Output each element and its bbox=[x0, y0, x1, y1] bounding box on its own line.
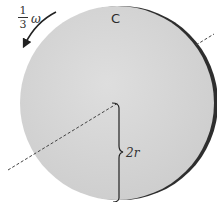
disc-diagram-svg bbox=[0, 0, 217, 202]
omega-symbol: ω bbox=[31, 12, 41, 26]
fraction-denominator: 3 bbox=[18, 19, 28, 30]
diagram-stage: C 1 3 ω 2r bbox=[0, 0, 217, 202]
angular-velocity-label: 1 3 ω bbox=[18, 5, 28, 30]
disc-face bbox=[20, 6, 214, 200]
disc-label: C bbox=[111, 11, 120, 26]
fraction-numerator: 1 bbox=[18, 5, 28, 16]
dimension-label: 2r bbox=[126, 146, 139, 160]
